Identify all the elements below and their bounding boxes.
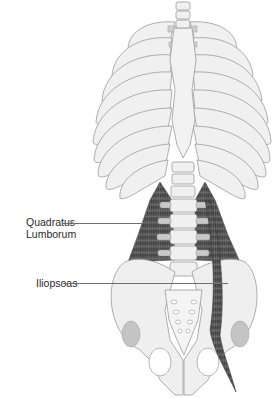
sternum — [170, 28, 196, 158]
label-line-2: Lumborum — [26, 228, 76, 240]
label-line-1: Quadratus — [26, 216, 76, 228]
anatomy-illustration — [0, 0, 275, 398]
leader-line-quadratus — [63, 223, 143, 224]
leader-line-iliopsoas — [63, 283, 228, 284]
label-quadratus-lumborum: Quadratus Lumborum — [26, 216, 76, 240]
